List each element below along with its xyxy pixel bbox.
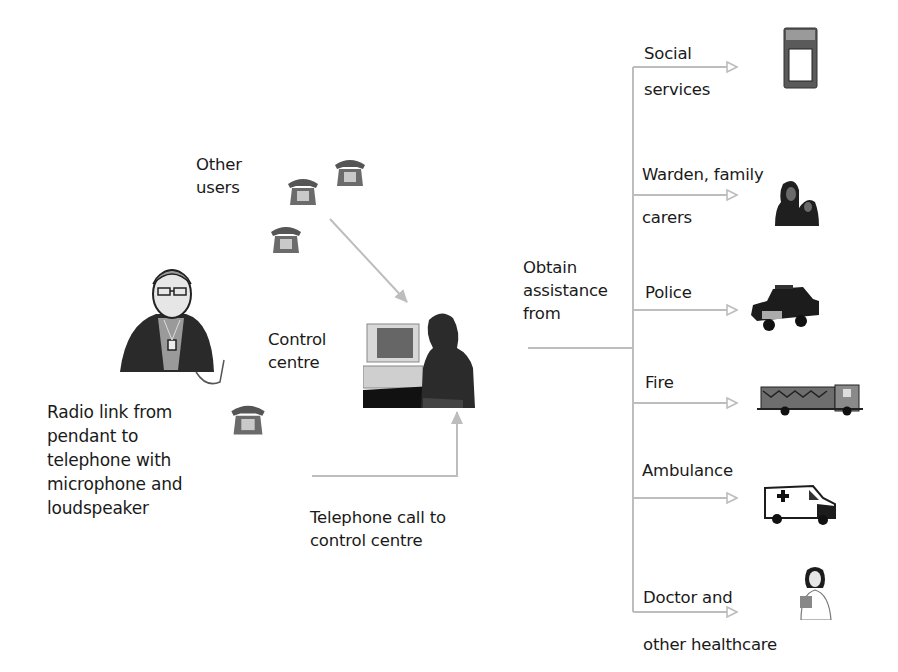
police-car-icon	[749, 285, 821, 333]
arrow-telephone-to-control	[312, 412, 457, 476]
telephone-icon	[332, 155, 368, 189]
operator-at-computer-icon	[363, 308, 477, 408]
control-centre-label: Control centre	[268, 328, 326, 374]
telephone-icon	[228, 400, 268, 438]
telephone-icon	[268, 222, 304, 256]
service-warden-family-carers: Warden, family carers	[642, 153, 764, 239]
radio-link-label: Radio link from pendant to telephone wit…	[47, 400, 182, 520]
mobile-phone-icon	[783, 27, 818, 89]
telephone-call-label: Telephone call to control centre	[310, 506, 446, 552]
service-fire: Fire	[645, 371, 674, 394]
elderly-man-with-pendant-icon	[116, 262, 228, 392]
service-ambulance: Ambulance	[642, 459, 733, 482]
other-users-label: Other users	[196, 153, 242, 199]
telephone-icon	[285, 174, 321, 208]
family-group-icon	[773, 178, 821, 226]
obtain-assistance-label: Obtain assistance from	[523, 256, 608, 325]
service-doctor-healthcare: Doctor and other healthcare	[643, 574, 777, 668]
arrow-other-users-to-control	[330, 219, 407, 302]
doctor-icon	[797, 566, 833, 620]
ambulance-icon	[763, 484, 837, 526]
fire-engine-icon	[757, 383, 863, 417]
service-police: Police	[645, 281, 692, 304]
service-social-services: Social services	[644, 36, 710, 108]
